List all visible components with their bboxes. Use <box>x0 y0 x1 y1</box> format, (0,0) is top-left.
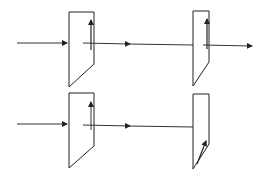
polarizer-diagram <box>0 0 266 179</box>
row-crossed <box>17 93 209 169</box>
middle-beam-arrow <box>83 43 130 44</box>
middle-beam-line <box>128 126 193 127</box>
outgoing-beam-arrow <box>203 45 252 46</box>
diagram-canvas <box>0 0 266 179</box>
polarizer-2-axis-diagonal-arrow <box>197 141 206 164</box>
middle-beam-line <box>128 44 193 45</box>
polarizer-2 <box>193 94 209 169</box>
polarizer-1 <box>69 12 94 87</box>
middle-beam-arrow <box>83 125 130 126</box>
row-parallel <box>17 11 252 87</box>
polarizer-1 <box>69 93 94 168</box>
